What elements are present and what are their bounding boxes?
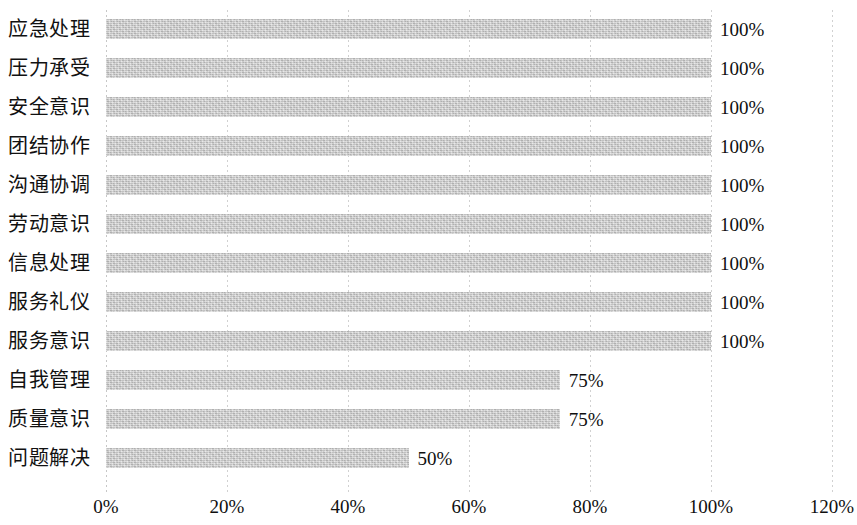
bar-value-label: 100% — [720, 127, 764, 166]
bar-value-label: 100% — [720, 166, 764, 205]
bar-row: 信息处理100% — [0, 244, 857, 283]
horizontal-bar-chart: 应急处理100%压力承受100%安全意识100%团结协作100%沟通协调100%… — [0, 0, 857, 525]
bar-row: 服务礼仪100% — [0, 283, 857, 322]
bar — [106, 58, 711, 78]
bar-value-label: 100% — [720, 205, 764, 244]
category-label: 劳动意识 — [8, 205, 102, 244]
bar — [106, 370, 560, 390]
category-label: 应急处理 — [8, 10, 102, 49]
category-label: 自我管理 — [8, 361, 102, 400]
category-label: 压力承受 — [8, 49, 102, 88]
bar — [106, 97, 711, 117]
bar-row: 安全意识100% — [0, 88, 857, 127]
bar-value-label: 100% — [720, 10, 764, 49]
category-label: 服务礼仪 — [8, 283, 102, 322]
bar — [106, 175, 711, 195]
bar-row: 劳动意识100% — [0, 205, 857, 244]
category-label: 沟通协调 — [8, 166, 102, 205]
bar-value-label: 75% — [569, 361, 604, 400]
bar — [106, 19, 711, 39]
x-tick-label: 80% — [573, 496, 608, 518]
bar — [106, 292, 711, 312]
bar-value-label: 100% — [720, 322, 764, 361]
bar-value-label: 50% — [418, 439, 453, 478]
category-label: 问题解决 — [8, 439, 102, 478]
bar-value-label: 100% — [720, 49, 764, 88]
x-tick-label: 100% — [689, 496, 733, 518]
bar-row: 团结协作100% — [0, 127, 857, 166]
bar — [106, 214, 711, 234]
bar-value-label: 100% — [720, 283, 764, 322]
category-label: 团结协作 — [8, 127, 102, 166]
bar-value-label: 75% — [569, 400, 604, 439]
x-tick-label: 0% — [93, 496, 118, 518]
category-label: 安全意识 — [8, 88, 102, 127]
x-axis: 0%20%40%60%80%100%120% — [0, 492, 857, 525]
category-label: 质量意识 — [8, 400, 102, 439]
bar-row: 应急处理100% — [0, 10, 857, 49]
bar — [106, 136, 711, 156]
bar-row: 自我管理75% — [0, 361, 857, 400]
bar-value-label: 100% — [720, 88, 764, 127]
bar — [106, 409, 560, 429]
bar-row: 压力承受100% — [0, 49, 857, 88]
bar — [106, 331, 711, 351]
bar — [106, 253, 711, 273]
bar-row: 沟通协调100% — [0, 166, 857, 205]
category-label: 服务意识 — [8, 322, 102, 361]
x-tick-label: 40% — [331, 496, 366, 518]
bar-row: 问题解决50% — [0, 439, 857, 478]
bar-row: 质量意识75% — [0, 400, 857, 439]
bar-row: 服务意识100% — [0, 322, 857, 361]
x-tick-label: 60% — [452, 496, 487, 518]
x-tick-label: 120% — [810, 496, 854, 518]
x-tick-label: 20% — [210, 496, 245, 518]
bar-value-label: 100% — [720, 244, 764, 283]
bar — [106, 448, 409, 468]
category-label: 信息处理 — [8, 244, 102, 283]
